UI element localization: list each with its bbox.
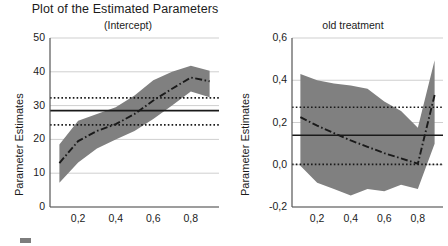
y-tick-label: 30 <box>4 99 45 111</box>
x-tick-label: 0,8 <box>398 212 438 224</box>
x-tick-label: 0,4 <box>96 212 136 224</box>
panel-left <box>50 38 219 207</box>
y-tick-label: 0,0 <box>246 158 287 170</box>
y-tick-label: 0 <box>4 200 45 212</box>
y-tick-label: 20 <box>4 132 45 144</box>
plot-graphics <box>0 0 448 246</box>
x-tick-label: 0,6 <box>133 212 173 224</box>
y-tick-label: 0,4 <box>246 73 287 85</box>
y-tick-label: 10 <box>4 166 45 178</box>
y-tick-label: 0,6 <box>246 31 287 43</box>
y-tick-label: 40 <box>4 65 45 77</box>
panel-right <box>292 38 443 207</box>
figure-canvas: Plot of the Estimated Parameters (Interc… <box>0 0 448 246</box>
y-tick-label: -0,2 <box>246 200 287 212</box>
y-tick-label: 0,2 <box>246 116 287 128</box>
x-tick-label: 0,8 <box>171 212 211 224</box>
y-tick-label: 50 <box>4 31 45 43</box>
x-tick-label: 0,2 <box>58 212 98 224</box>
confidence-band-swatch-icon <box>20 238 31 243</box>
